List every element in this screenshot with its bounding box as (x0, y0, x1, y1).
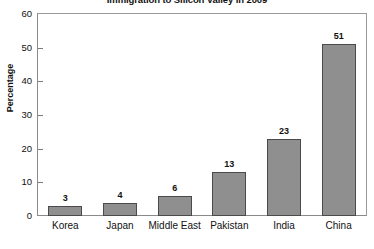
y-tick-mark (38, 81, 43, 82)
bar-chart-figure: Immigration to Silicon Valley in 2009 Pe… (0, 0, 374, 249)
y-tick-label: 60 (7, 9, 32, 19)
bar (158, 196, 192, 216)
y-tick-label: 30 (7, 110, 32, 120)
x-axis-label: India (257, 220, 312, 232)
bar-value-label: 23 (257, 127, 312, 136)
bar (48, 206, 82, 216)
bar (103, 203, 137, 216)
bar (267, 139, 301, 216)
x-axis-label: China (311, 220, 366, 232)
x-axis-label: Pakistan (202, 220, 257, 232)
bar-value-label: 4 (93, 191, 148, 200)
x-axis-label: Middle East (147, 220, 202, 232)
y-tick-label: 0 (7, 211, 32, 221)
plot-area (37, 13, 367, 216)
bar-value-label: 51 (311, 32, 366, 41)
bar-value-label: 3 (38, 194, 93, 203)
y-tick-mark (38, 182, 43, 183)
y-tick-label: 20 (7, 144, 32, 154)
y-tick-mark (38, 48, 43, 49)
x-axis-label: Korea (38, 220, 93, 232)
y-tick-label: 10 (7, 177, 32, 187)
y-tick-mark (38, 149, 43, 150)
x-axis-label: Japan (93, 220, 148, 232)
bar-value-label: 6 (147, 184, 202, 193)
y-tick-label: 50 (7, 43, 32, 53)
y-tick-mark (38, 115, 43, 116)
chart-title: Immigration to Silicon Valley in 2009 (0, 0, 374, 5)
y-tick-label: 40 (7, 76, 32, 86)
bar (212, 172, 246, 216)
bar-value-label: 13 (202, 160, 257, 169)
bar (322, 44, 356, 216)
